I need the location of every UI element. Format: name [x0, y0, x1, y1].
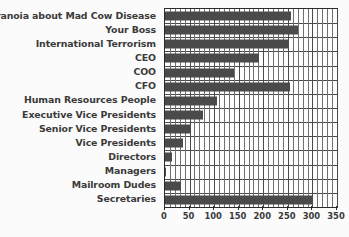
category-label: Executive Vice Presidents — [0, 107, 160, 121]
bar — [165, 40, 288, 49]
bar — [165, 195, 312, 204]
category-label: Secretaries — [0, 192, 160, 206]
axis-tick — [189, 206, 190, 210]
axis-tick — [164, 206, 165, 210]
category-axis-labels: Paranoia about Mad Cow DiseaseYour BossI… — [0, 8, 160, 206]
bar — [165, 111, 203, 120]
category-label: Paranoia about Mad Cow Disease — [0, 8, 160, 22]
axis-tick-label: 150 — [229, 211, 246, 221]
axis-tick — [238, 206, 239, 210]
axis-tick-label: 200 — [254, 211, 271, 221]
bar-row — [165, 37, 337, 51]
axis-tick — [262, 206, 263, 210]
bar-series — [165, 9, 337, 207]
axis-tick — [213, 206, 214, 210]
axis-tick-label: 0 — [161, 211, 167, 221]
bar-row — [165, 108, 337, 122]
bar-row — [165, 150, 337, 164]
bar-row — [165, 80, 337, 94]
category-label: COO — [0, 65, 160, 79]
plot-area — [164, 8, 338, 208]
category-label: Directors — [0, 149, 160, 163]
bar-row — [165, 66, 337, 80]
category-label: Your Boss — [0, 22, 160, 36]
bar — [165, 181, 181, 190]
gridline-major — [337, 9, 338, 207]
axis-tick-label: 250 — [278, 211, 295, 221]
bar-row — [165, 193, 337, 207]
category-label: Human Resources People — [0, 93, 160, 107]
value-axis: 050100150200250300350 — [164, 206, 337, 234]
category-label: Senior Vice Presidents — [0, 121, 160, 135]
bar-row — [165, 94, 337, 108]
axis-tick — [311, 206, 312, 210]
bar-row — [165, 165, 337, 179]
bar — [165, 139, 183, 148]
bar-row — [165, 136, 337, 150]
bar — [165, 153, 172, 162]
bar-row — [165, 23, 337, 37]
category-label: Mailroom Dudes — [0, 178, 160, 192]
axis-tick — [287, 206, 288, 210]
category-label: CFO — [0, 79, 160, 93]
bar — [165, 167, 166, 176]
bar — [165, 26, 298, 35]
category-label: Vice Presidents — [0, 135, 160, 149]
bar — [165, 96, 217, 105]
bar — [165, 125, 191, 134]
axis-tick-label: 300 — [303, 211, 320, 221]
axis-tick-label: 100 — [204, 211, 221, 221]
bar — [165, 12, 291, 21]
axis-tick-label: 350 — [327, 211, 344, 221]
bar-row — [165, 9, 337, 23]
category-label: Managers — [0, 164, 160, 178]
bar — [165, 82, 290, 91]
category-label: International Terrorism — [0, 36, 160, 50]
bar — [165, 54, 259, 63]
bar-row — [165, 51, 337, 65]
bar-row — [165, 122, 337, 136]
category-label: CEO — [0, 50, 160, 64]
bar — [165, 68, 234, 77]
horizontal-bar-chart: Paranoia about Mad Cow DiseaseYour BossI… — [0, 0, 349, 237]
bar-row — [165, 179, 337, 193]
axis-tick — [336, 206, 337, 210]
axis-tick-label: 50 — [183, 211, 195, 221]
